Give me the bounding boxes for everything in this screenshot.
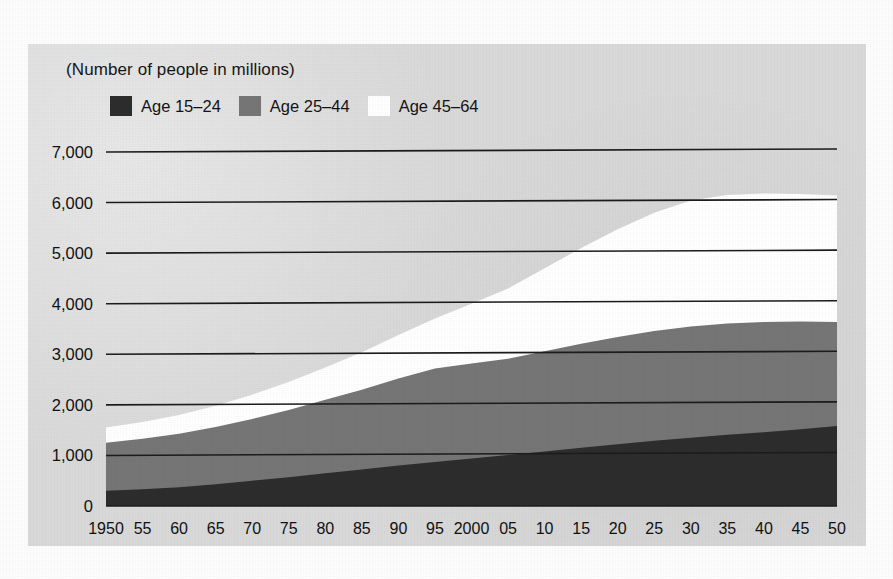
stacked-area-chart: 01,0002,0003,0004,0005,0006,0007,000 195… bbox=[28, 44, 866, 546]
gridline-7000 bbox=[106, 149, 837, 152]
x-tick-label: 45 bbox=[792, 520, 810, 537]
x-tick-label: 20 bbox=[609, 520, 627, 537]
x-tick-label: 85 bbox=[353, 520, 371, 537]
x-tick-label: 15 bbox=[572, 520, 590, 537]
x-tick-label: 10 bbox=[536, 520, 554, 537]
y-axis-tick-labels: 01,0002,0003,0004,0005,0006,0007,000 bbox=[52, 143, 93, 515]
x-tick-label: 50 bbox=[828, 520, 846, 537]
x-tick-label: 60 bbox=[170, 520, 188, 537]
y-tick-label: 4,000 bbox=[52, 295, 93, 313]
x-axis-tick-labels: 1950556065707580859095200005101520253035… bbox=[88, 520, 846, 537]
figure-root: (Number of people in millions) Age 15–24… bbox=[0, 0, 893, 579]
y-tick-label: 0 bbox=[84, 497, 93, 515]
x-tick-label: 2000 bbox=[454, 520, 490, 537]
y-tick-label: 2,000 bbox=[52, 396, 93, 414]
y-tick-label: 7,000 bbox=[52, 143, 93, 161]
x-tick-label: 70 bbox=[243, 520, 261, 537]
y-tick-label: 3,000 bbox=[52, 345, 93, 363]
x-tick-label: 80 bbox=[316, 520, 334, 537]
y-tick-label: 6,000 bbox=[52, 194, 93, 212]
x-tick-label: 30 bbox=[682, 520, 700, 537]
x-tick-label: 90 bbox=[390, 520, 408, 537]
x-tick-label: 75 bbox=[280, 520, 298, 537]
x-tick-label: 65 bbox=[207, 520, 225, 537]
x-tick-label: 35 bbox=[718, 520, 736, 537]
y-tick-label: 5,000 bbox=[52, 244, 93, 262]
x-tick-label: 40 bbox=[755, 520, 773, 537]
chart-areas bbox=[106, 193, 837, 506]
y-tick-label: 1,000 bbox=[52, 446, 93, 464]
x-tick-label: 95 bbox=[426, 520, 444, 537]
x-tick-label: 25 bbox=[645, 520, 663, 537]
chart-panel: (Number of people in millions) Age 15–24… bbox=[28, 44, 866, 546]
x-tick-label: 1950 bbox=[88, 520, 124, 537]
x-tick-label: 55 bbox=[134, 520, 152, 537]
x-tick-label: 05 bbox=[499, 520, 517, 537]
